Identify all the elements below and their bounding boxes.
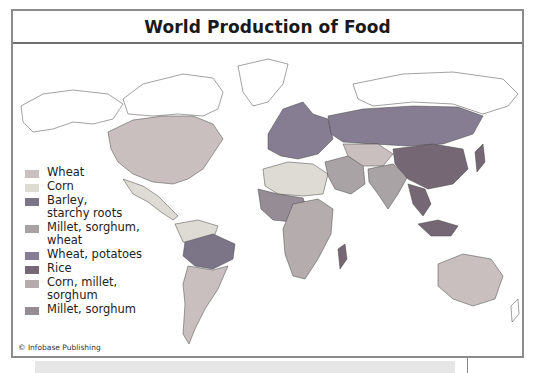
- legend-swatch: [25, 307, 39, 315]
- region-north-africa: [263, 162, 328, 196]
- region-japan: [475, 144, 485, 172]
- legend: Wheat Corn Barley, starchy roots Millet,…: [25, 166, 142, 317]
- legend-label: Millet, sorghum: [47, 303, 136, 316]
- legend-swatch: [25, 280, 39, 288]
- legend-swatch: [25, 170, 39, 178]
- legend-label: Corn, millet, sorghum: [47, 276, 117, 302]
- legend-label: Rice: [47, 262, 72, 275]
- legend-item-wheat: Wheat: [25, 166, 142, 179]
- legend-swatch: [25, 266, 39, 274]
- legend-swatch: [25, 225, 39, 233]
- legend-label: Barley, starchy roots: [47, 194, 122, 220]
- region-central-southern-africa: [283, 199, 333, 279]
- page-band: [35, 361, 455, 373]
- legend-item-wheat-potatoes: Wheat, potatoes: [25, 248, 142, 261]
- region-australia: [438, 254, 503, 306]
- region-madagascar: [338, 244, 347, 269]
- region-new-zealand: [511, 299, 519, 322]
- map-title: World Production of Food: [144, 17, 391, 37]
- legend-item-corn-millet-sorghum: Corn, millet, sorghum: [25, 276, 142, 302]
- legend-label: Wheat, potatoes: [47, 248, 142, 261]
- legend-item-millet-sorghum-wheat: Millet, sorghum, wheat: [25, 221, 142, 247]
- region-alaska: [21, 90, 123, 132]
- legend-item-barley: Barley, starchy roots: [25, 194, 142, 220]
- legend-swatch: [25, 184, 39, 192]
- region-europe: [268, 102, 333, 159]
- legend-swatch: [25, 252, 39, 260]
- legend-item-corn: Corn: [25, 180, 142, 193]
- legend-label: Corn: [47, 180, 74, 193]
- page-divider: [467, 358, 468, 373]
- legend-label: Millet, sorghum, wheat: [47, 221, 140, 247]
- region-russia: [328, 106, 483, 146]
- map-frame: World Production of Food: [11, 9, 524, 358]
- copyright-credit: © Infobase Publishing: [18, 343, 101, 352]
- region-canada-north: [123, 74, 223, 116]
- title-bar: World Production of Food: [13, 11, 522, 44]
- region-greenland: [238, 59, 288, 106]
- legend-swatch: [25, 198, 39, 206]
- region-indonesia: [418, 220, 458, 236]
- legend-label: Wheat: [47, 166, 84, 179]
- region-southern-south-america: [183, 266, 228, 344]
- legend-item-rice: Rice: [25, 262, 142, 275]
- legend-item-millet-sorghum: Millet, sorghum: [25, 303, 142, 316]
